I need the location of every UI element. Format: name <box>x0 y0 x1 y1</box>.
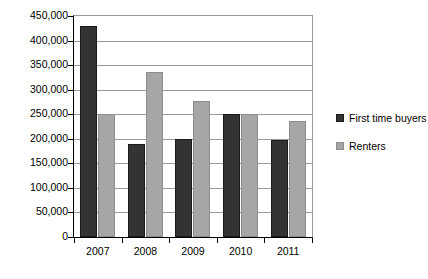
x-tick-mark <box>169 238 170 243</box>
y-tick-label: 150,000 <box>2 157 68 168</box>
y-tick-label: 450,000 <box>2 10 68 21</box>
x-tick-label: 2011 <box>264 245 312 261</box>
x-tick-mark <box>122 238 123 243</box>
y-tick-label: 100,000 <box>2 182 68 193</box>
x-tick-label: 2008 <box>122 245 170 261</box>
y-axis-labels: 050,000100,000150,000200,000250,000300,0… <box>0 0 68 279</box>
bar <box>223 114 240 237</box>
y-tick-label: 250,000 <box>2 108 68 119</box>
bar <box>80 26 97 237</box>
legend-swatch-icon <box>336 142 344 150</box>
bar <box>146 72 163 237</box>
y-tick-label: 400,000 <box>2 35 68 46</box>
x-tick-label: 2010 <box>217 245 265 261</box>
chart-legend: First time buyersRenters <box>336 112 428 168</box>
legend-swatch-icon <box>336 114 344 122</box>
legend-label: Renters <box>349 140 386 152</box>
x-axis-ticks <box>74 238 312 243</box>
y-tick-label: 350,000 <box>2 59 68 70</box>
bar-group <box>264 16 312 237</box>
bar-group <box>74 16 122 237</box>
bar-group <box>217 16 265 237</box>
x-tick-mark <box>312 238 313 243</box>
x-tick-mark <box>74 238 75 243</box>
bar-group <box>169 16 217 237</box>
bar <box>128 144 145 237</box>
legend-item[interactable]: Renters <box>336 140 428 152</box>
bar-chart: 050,000100,000150,000200,000250,000300,0… <box>0 0 428 279</box>
legend-label: First time buyers <box>349 112 427 124</box>
y-tick-label: 0 <box>2 231 68 242</box>
x-tick-mark <box>217 238 218 243</box>
x-tick-label: 2007 <box>74 245 122 261</box>
legend-item[interactable]: First time buyers <box>336 112 428 124</box>
bar <box>271 140 288 237</box>
bars-layer <box>74 16 312 237</box>
y-tick-label: 300,000 <box>2 84 68 95</box>
bar-group <box>122 16 170 237</box>
y-tick-label: 50,000 <box>2 206 68 217</box>
bar <box>241 114 258 237</box>
bar <box>175 139 192 237</box>
bar <box>289 121 306 237</box>
x-axis-labels: 20072008200920102011 <box>74 245 312 261</box>
bar <box>98 114 115 237</box>
x-tick-label: 2009 <box>169 245 217 261</box>
y-tick-label: 200,000 <box>2 133 68 144</box>
x-tick-mark <box>264 238 265 243</box>
bar <box>193 101 210 237</box>
